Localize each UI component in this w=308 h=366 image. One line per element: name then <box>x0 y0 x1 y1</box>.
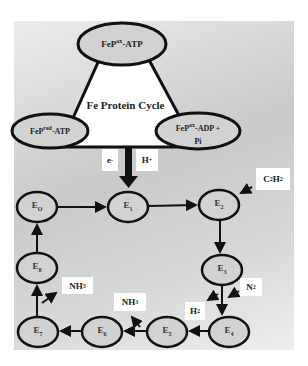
state-label-e5: E5 <box>147 325 187 337</box>
state-label-e1: E1 <box>108 200 148 212</box>
nh3-product-label-e7: NH3 <box>62 277 93 294</box>
state-label-e0: EO <box>17 200 57 212</box>
state-label-e8: E8 <box>17 261 57 273</box>
state-label-e4: E4 <box>209 325 249 337</box>
state-label-e3: E3 <box>202 263 242 275</box>
proton-label: H+ <box>136 149 158 171</box>
state-label-e2: E2 <box>199 198 239 210</box>
state-label-e7: E7 <box>18 325 58 337</box>
nh3-product-label-e5: NH3 <box>114 293 146 311</box>
h2-label: H2 <box>185 302 205 320</box>
fe-left-label: FePred-ATP <box>14 125 86 136</box>
electron-label: e- <box>102 149 118 171</box>
fe-top-label: FePox-ATP <box>82 38 162 49</box>
n2-label: N2 <box>240 278 262 296</box>
c2h2-label: C2H2 <box>256 168 290 190</box>
state-label-e6: E6 <box>82 325 122 337</box>
fe-right-label: FePox-ADP + Pi <box>158 119 238 148</box>
fe-cycle-title: Fe Protein Cycle <box>78 99 173 111</box>
